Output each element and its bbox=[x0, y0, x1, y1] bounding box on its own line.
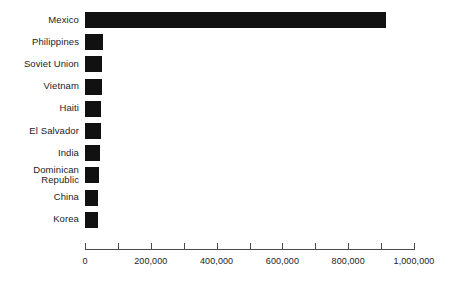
axis-tick bbox=[250, 243, 251, 249]
bar bbox=[85, 79, 102, 95]
category-axis-labels: MexicoPhilippinesSoviet UnionVietnamHait… bbox=[0, 8, 79, 244]
category-label: Philippines bbox=[0, 37, 79, 48]
bar bbox=[85, 12, 386, 28]
axis-tick bbox=[282, 243, 283, 249]
category-label: Dominican Republic bbox=[0, 165, 79, 186]
axis-tick bbox=[151, 243, 152, 249]
axis-tick bbox=[217, 243, 218, 249]
bar bbox=[85, 190, 98, 206]
plot-area bbox=[85, 8, 414, 244]
axis-tick bbox=[414, 243, 415, 250]
bar bbox=[85, 145, 100, 161]
category-label: India bbox=[0, 148, 79, 159]
bar bbox=[85, 167, 99, 183]
bar bbox=[85, 212, 98, 228]
axis-tick bbox=[85, 243, 86, 250]
bar-row bbox=[85, 145, 414, 161]
bar-series bbox=[85, 8, 414, 244]
category-label: Soviet Union bbox=[0, 59, 79, 70]
axis-tick-label: 600,000 bbox=[266, 256, 299, 266]
category-label: Mexico bbox=[0, 15, 79, 26]
bar bbox=[85, 123, 101, 139]
bar-row bbox=[85, 123, 414, 139]
bar-row bbox=[85, 34, 414, 50]
x-axis-line bbox=[85, 249, 415, 250]
axis-tick bbox=[315, 243, 316, 249]
axis-tick bbox=[184, 243, 185, 249]
bar-row bbox=[85, 167, 414, 183]
axis-tick-label: 1,000,000 bbox=[394, 256, 435, 266]
category-label: El Salvador bbox=[0, 126, 79, 137]
axis-tick-label: 400,000 bbox=[200, 256, 233, 266]
bar-row bbox=[85, 101, 414, 117]
axis-tick bbox=[348, 243, 349, 249]
bar-row bbox=[85, 56, 414, 72]
axis-tick bbox=[381, 243, 382, 249]
bar-row bbox=[85, 12, 414, 28]
bar-chart: MexicoPhilippinesSoviet UnionVietnamHait… bbox=[0, 0, 457, 286]
axis-tick bbox=[118, 243, 119, 249]
bar bbox=[85, 101, 101, 117]
category-label: Haiti bbox=[0, 103, 79, 114]
axis-tick-label: 0 bbox=[82, 256, 87, 266]
bar bbox=[85, 56, 102, 72]
bar-row bbox=[85, 212, 414, 228]
axis-tick-label: 800,000 bbox=[332, 256, 365, 266]
category-label: Vietnam bbox=[0, 81, 79, 92]
category-label: China bbox=[0, 192, 79, 203]
bar-row bbox=[85, 190, 414, 206]
bar bbox=[85, 34, 103, 50]
bar-row bbox=[85, 79, 414, 95]
category-label: Korea bbox=[0, 214, 79, 225]
axis-tick-label: 200,000 bbox=[134, 256, 167, 266]
